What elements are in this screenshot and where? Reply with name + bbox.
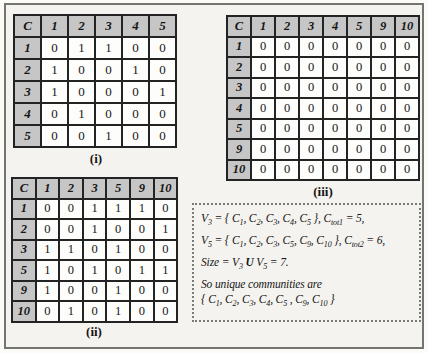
col-header-cell: 4 (122, 15, 149, 37)
matrix-cell: 0 (371, 119, 395, 140)
matrix-cell: 1 (41, 59, 68, 81)
matrix-cell: 0 (299, 139, 323, 160)
matrix-row: 500100 (14, 125, 176, 147)
matrix-cell: 1 (95, 37, 122, 59)
matrix-cell: 1 (68, 37, 95, 59)
matrix-cell: 0 (275, 78, 299, 99)
matrix-row: 90000000 (227, 139, 419, 160)
matrix-cell: 0 (68, 81, 95, 103)
matrix-cell: 1 (106, 240, 130, 261)
header-row: C12345 (14, 15, 176, 37)
matrix-row: 310001 (14, 81, 176, 103)
matrix-cell: 1 (106, 199, 130, 220)
matrix-cell: 0 (130, 219, 154, 240)
row-header-cell: 10 (12, 301, 36, 322)
matrix-cell: 0 (68, 59, 95, 81)
corner-header-cell: C (227, 16, 251, 37)
matrix-cell: 0 (149, 37, 176, 59)
matrix-cell: 0 (154, 240, 178, 261)
matrix-cell: 0 (275, 139, 299, 160)
matrix-cell: 0 (59, 281, 83, 302)
matrix-cell: 1 (36, 240, 60, 261)
matrix-cell: 1 (59, 240, 83, 261)
community-matrix-i: C12345101100210010310001401000500100 (13, 14, 177, 148)
matrix-cell: 0 (154, 301, 178, 322)
row-header-cell: 3 (227, 78, 251, 99)
matrix-cell: 1 (122, 59, 149, 81)
matrix-cell: 0 (395, 119, 419, 140)
corner-header-cell: C (12, 178, 36, 199)
matrix-cell: 0 (95, 59, 122, 81)
matrix-cell: 0 (323, 139, 347, 160)
matrix-row: 30000000 (227, 78, 419, 99)
matrix-cell: 0 (347, 139, 371, 160)
matrix-row: 1001110 (12, 199, 177, 220)
row-header-cell: 1 (14, 37, 41, 59)
matrix-cell: 0 (122, 125, 149, 147)
matrix-cell: 0 (275, 57, 299, 78)
matrix-cell: 0 (347, 57, 371, 78)
matrix-cell: 0 (251, 98, 275, 119)
row-header-cell: 1 (227, 37, 251, 58)
matrix-cell: 1 (59, 301, 83, 322)
header-row: C12345910 (227, 16, 419, 37)
matrix-cell: 0 (275, 37, 299, 58)
col-header-cell: 5 (149, 15, 176, 37)
matrix-cell: 0 (36, 301, 60, 322)
col-header-cell: 1 (36, 178, 60, 199)
matrix-cell: 0 (130, 240, 154, 261)
matrix-cell: 0 (323, 37, 347, 58)
matrix-cell: 0 (106, 219, 130, 240)
col-header-cell: 4 (323, 16, 347, 37)
matrix-cell: 0 (154, 199, 178, 220)
row-header-cell: 10 (227, 160, 251, 181)
matrix-row: 3110100 (12, 240, 177, 261)
note-line: Size = V3 U V5 = 7. (201, 255, 413, 270)
matrix-cell: 0 (275, 160, 299, 181)
matrix-cell: 0 (83, 240, 107, 261)
matrix-cell: 1 (130, 199, 154, 220)
community-matrix-iii: C123459101000000020000000300000004000000… (226, 15, 420, 181)
matrix-cell: 1 (106, 281, 130, 302)
matrix-row: 2001001 (12, 219, 177, 240)
community-matrix-ii: C123591010011102001001311010051010119100… (11, 177, 178, 323)
col-header-cell: 5 (347, 16, 371, 37)
col-header-cell: 2 (275, 16, 299, 37)
matrix-cell: 1 (106, 301, 130, 322)
matrix-cell: 0 (395, 37, 419, 58)
matrix-cell: 1 (130, 260, 154, 281)
matrix-cell: 0 (395, 78, 419, 99)
matrix-cell: 0 (395, 57, 419, 78)
matrix-cell: 0 (149, 103, 176, 125)
row-header-cell: 1 (12, 199, 36, 220)
matrix-cell: 0 (275, 119, 299, 140)
matrix-cell: 0 (251, 37, 275, 58)
note-lines: V3 = { C1, C2, C3, C4, C5 }, Ctot1 = 5,V… (201, 211, 413, 307)
matrix-row: 100000000 (227, 160, 419, 181)
matrix-cell: 0 (371, 78, 395, 99)
matrix-cell: 0 (251, 160, 275, 181)
matrix-cell: 0 (251, 139, 275, 160)
matrix-cell: 1 (41, 81, 68, 103)
matrix-cell: 0 (299, 78, 323, 99)
matrix-cell: 0 (95, 81, 122, 103)
col-header-cell: 3 (299, 16, 323, 37)
matrix-cell: 0 (395, 160, 419, 181)
note-line: So unique communities are (201, 277, 413, 292)
col-header-cell: 9 (371, 16, 395, 37)
matrix-cell: 0 (371, 139, 395, 160)
col-header-cell: 3 (95, 15, 122, 37)
matrix-cell: 1 (154, 219, 178, 240)
matrix-cell: 0 (395, 98, 419, 119)
matrix-cell: 0 (323, 98, 347, 119)
matrix-cell: 0 (299, 119, 323, 140)
row-header-cell: 5 (14, 125, 41, 147)
matrix-cell: 1 (83, 199, 107, 220)
row-header-cell: 4 (227, 98, 251, 119)
col-header-cell: 9 (130, 178, 154, 199)
matrix-cell: 0 (83, 301, 107, 322)
matrix-row: 9100100 (12, 281, 177, 302)
matrix-cell: 0 (251, 57, 275, 78)
matrix-row: 20000000 (227, 57, 419, 78)
matrix-cell: 0 (68, 125, 95, 147)
